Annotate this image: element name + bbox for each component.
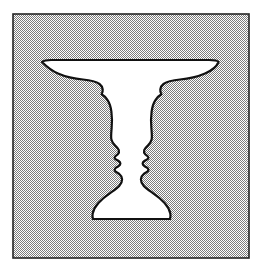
rubin-vase-illustration xyxy=(0,0,260,270)
figure-root: Rubin Vase Figure-ground reversible illu… xyxy=(0,0,260,270)
